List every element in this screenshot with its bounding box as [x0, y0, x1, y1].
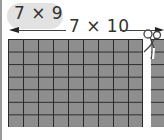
array-grid-7x9: [8, 39, 143, 127]
partial-product-label: 7 × 9: [14, 3, 63, 23]
full-product-label: 7 × 10: [66, 16, 133, 36]
scissors-icon: [141, 28, 163, 60]
dimension-line-left: [18, 30, 68, 31]
left-border-rule: [0, 0, 2, 140]
